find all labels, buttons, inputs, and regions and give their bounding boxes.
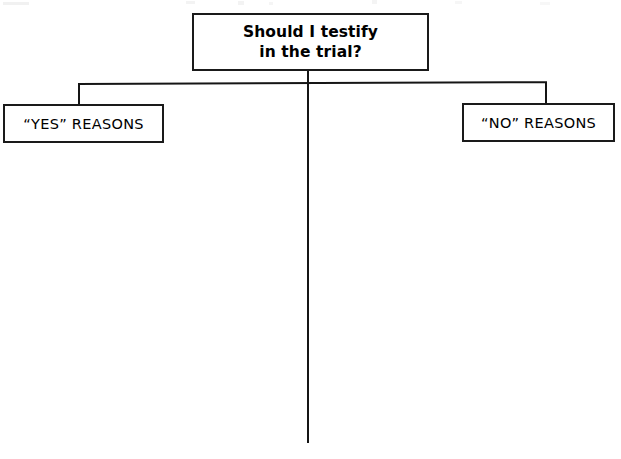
no-reasons-label: “NO” REASONS [481,115,596,131]
scan-artifact [455,1,462,4]
center-divider-line [307,71,309,443]
yes-reasons-label: “YES” REASONS [23,116,144,132]
no-branch-connector-line [545,82,547,104]
scan-artifact [372,0,377,4]
question-line-2: in the trial? [259,43,362,61]
scan-artifact [186,1,195,4]
question-text: Should I testify in the trial? [243,22,378,63]
no-reasons-box: “NO” REASONS [462,103,615,142]
worksheet-page: Should I testify in the trial? “YES” REA… [0,0,621,459]
scan-artifact [3,2,29,5]
question-box: Should I testify in the trial? [192,13,429,71]
yes-branch-connector-line [78,84,80,105]
scan-artifact [269,2,273,5]
branch-connector-line [78,81,547,85]
question-line-1: Should I testify [243,23,378,41]
yes-reasons-box: “YES” REASONS [3,104,164,143]
scan-artifact [238,1,244,5]
scan-artifact [540,2,550,5]
